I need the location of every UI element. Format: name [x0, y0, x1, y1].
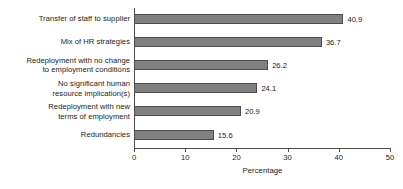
category-axis-labels: Transfer of staff to supplierMix of HR s…	[0, 8, 130, 148]
bar-row: 15.6	[134, 130, 390, 140]
x-axis-tick-label: 0	[122, 153, 146, 162]
x-axis-tick-label: 20	[224, 153, 248, 162]
bar-value-label: 36.7	[326, 37, 341, 46]
category-label-line: Redeployment with new	[0, 102, 130, 111]
category-label: Transfer of staff to supplier	[0, 14, 130, 23]
bar	[134, 14, 343, 24]
category-label-line: Mix of HR strategies	[0, 37, 130, 46]
x-axis-tick	[236, 148, 237, 152]
bar-row: 26.2	[134, 60, 390, 70]
x-axis-tick	[288, 148, 289, 152]
bar-value-label: 20.9	[245, 107, 260, 116]
x-axis-tick-label: 10	[173, 153, 197, 162]
category-label-line: No significant human	[0, 79, 130, 88]
bar	[134, 83, 257, 93]
x-axis-tick	[390, 148, 391, 152]
bar-row: 40.9	[134, 14, 390, 24]
category-label: Redeployment with no changeto employment…	[0, 55, 130, 74]
bar-value-label: 24.1	[261, 84, 276, 93]
bar-chart: Transfer of staff to supplierMix of HR s…	[0, 0, 403, 189]
category-label-line: Redeployment with no change	[0, 55, 130, 64]
x-axis-tick-label: 40	[327, 153, 351, 162]
category-label: Mix of HR strategies	[0, 37, 130, 46]
category-label: Redeployment with newterms of employment	[0, 102, 130, 121]
bar-row: 24.1	[134, 83, 390, 93]
bar	[134, 60, 268, 70]
x-axis-tick-label: 50	[378, 153, 402, 162]
bar	[134, 130, 214, 140]
bar-row: 20.9	[134, 106, 390, 116]
bar	[134, 106, 241, 116]
bar-row: 36.7	[134, 37, 390, 47]
category-label: Redundancies	[0, 130, 130, 139]
plot-area: 40.936.726.224.120.915.6	[134, 8, 390, 148]
bar-value-label: 26.2	[272, 60, 287, 69]
x-axis-title: Percentage	[134, 166, 391, 176]
x-axis-tick	[134, 148, 135, 152]
x-axis-tick-label: 30	[276, 153, 300, 162]
category-label-line: terms of employment	[0, 111, 130, 120]
x-axis-line	[134, 148, 391, 149]
category-label-line: resource implication(s)	[0, 88, 130, 97]
x-axis-tick	[185, 148, 186, 152]
bar-value-label: 15.6	[218, 130, 233, 139]
category-label: No significant humanresource implication…	[0, 79, 130, 98]
category-label-line: Redundancies	[0, 130, 130, 139]
category-label-line: to employment conditions	[0, 65, 130, 74]
bar-value-label: 40.9	[347, 14, 362, 23]
category-label-line: Transfer of staff to supplier	[0, 14, 130, 23]
x-axis-tick	[339, 148, 340, 152]
bar	[134, 37, 322, 47]
